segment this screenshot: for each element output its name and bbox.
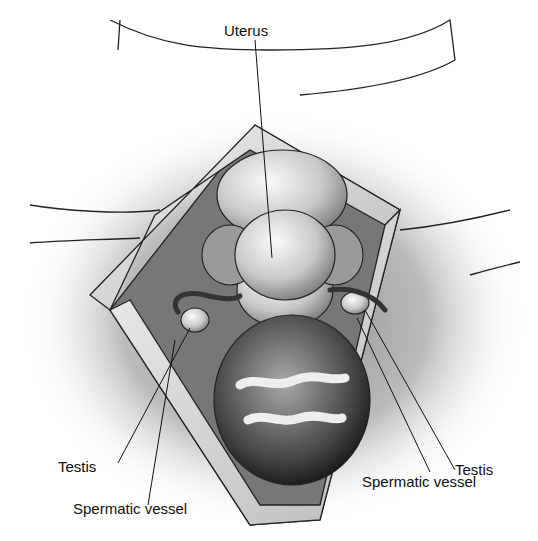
label-spermatic-vessel-right: Spermatic vessel (362, 473, 476, 490)
testis-left (181, 308, 209, 332)
bladder (214, 315, 370, 485)
label-uterus: Uterus (224, 22, 268, 39)
label-spermatic-vessel-left: Spermatic vessel (73, 500, 187, 517)
body-outline (110, 20, 455, 95)
label-testis-left: Testis (58, 458, 96, 475)
